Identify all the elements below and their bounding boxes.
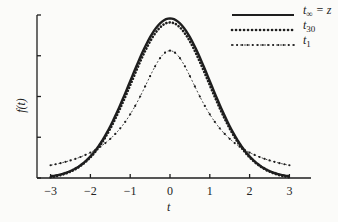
series-t1-marker: [263, 158, 265, 160]
series-t1-marker: [214, 121, 216, 123]
series-t1-marker: [139, 95, 141, 97]
series-t1-marker: [74, 158, 76, 160]
series-t1-line: [51, 51, 290, 166]
legend-marker-t1: [231, 44, 233, 46]
series-t1-marker: [114, 133, 116, 135]
series-t1-marker: [194, 85, 196, 87]
series-t1-marker: [169, 50, 171, 52]
legend-marker-t1: [293, 44, 295, 46]
series-t1-marker: [79, 156, 81, 158]
series-t1-marker: [253, 154, 255, 156]
legend-marker-t1: [283, 44, 285, 46]
legend-item-t1: t1: [303, 33, 311, 49]
x-tick-label: 2: [247, 184, 253, 199]
series-t1-marker: [104, 142, 106, 144]
series-t1-marker: [59, 162, 61, 164]
series-t1-marker: [179, 57, 181, 59]
series-t1-marker: [189, 75, 191, 77]
series-group: [50, 18, 291, 177]
series-t1-marker: [99, 146, 101, 148]
series-t1-marker: [199, 95, 201, 97]
legend-marker-t1: [252, 44, 254, 46]
series-t1-marker: [278, 162, 280, 164]
series-t1-marker: [224, 133, 226, 135]
legend-marker-t1: [272, 44, 274, 46]
series-t1-marker: [234, 142, 236, 144]
series-t1-marker: [239, 146, 241, 148]
legend-marker-t1: [236, 44, 238, 46]
series-t1-marker: [69, 159, 71, 161]
series-t1-marker: [154, 65, 156, 67]
x-tick-label: 3: [286, 184, 292, 199]
series-t1-marker: [109, 138, 111, 140]
series-t1-marker: [134, 105, 136, 107]
series-t1-marker: [164, 52, 166, 54]
axes: [37, 15, 311, 178]
series-t-inf-line: [51, 18, 290, 176]
series-t1-marker: [124, 121, 126, 123]
series-t1-marker: [209, 113, 211, 115]
series-t1-marker: [283, 163, 285, 165]
legend-marker-t1: [257, 44, 259, 46]
legend-marker-t1: [288, 44, 290, 46]
series-t1-marker: [129, 113, 131, 115]
series-t1-marker: [119, 127, 121, 129]
series-t1-marker: [159, 57, 161, 59]
series-t1-marker: [219, 127, 221, 129]
legend-item-t-inf: t∞ = z: [303, 3, 332, 19]
x-axis-label: t: [167, 200, 170, 215]
series-t1-marker: [184, 65, 186, 67]
legend-marker-t1: [267, 44, 269, 46]
x-tick-label: 0: [167, 184, 173, 199]
series-t1-marker: [229, 138, 231, 140]
series-t1-marker: [84, 154, 86, 156]
series-t1-marker: [94, 149, 96, 151]
legend-marker-t1: [262, 44, 264, 46]
legend-lines: [231, 15, 295, 46]
legend-marker-t1: [277, 44, 279, 46]
x-tick-label: −2: [84, 184, 97, 199]
legend-item-t30: t30: [303, 18, 315, 34]
series-t1-marker: [268, 159, 270, 161]
x-tick-label: 1: [207, 184, 213, 199]
series-t1-marker: [244, 149, 246, 151]
series-t1-marker: [258, 156, 260, 158]
series-t1-marker: [273, 161, 275, 163]
series-t1-marker: [249, 151, 251, 153]
series-t1-marker: [144, 85, 146, 87]
series-t1-marker: [50, 164, 52, 166]
series-t1-marker: [174, 52, 176, 54]
series-t1-marker: [149, 75, 151, 77]
y-axis-label: f(t): [14, 98, 29, 113]
series-t1-marker: [89, 151, 91, 153]
series-t1-marker: [204, 105, 206, 107]
x-tick-label: −3: [44, 184, 57, 199]
x-tick-label: −1: [124, 184, 137, 199]
series-t1-marker: [288, 164, 290, 166]
legend-marker-t1: [246, 44, 248, 46]
series-t1-marker: [64, 161, 66, 163]
legend-marker-t1: [241, 44, 243, 46]
series-t1-marker: [54, 163, 56, 165]
